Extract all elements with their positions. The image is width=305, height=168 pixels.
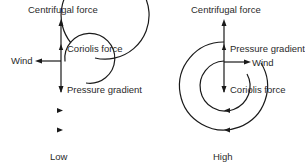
label-pressure-gradient: Pressure gradient [67, 84, 142, 95]
centrifugal-arrow-icon [222, 19, 227, 26]
wind-arrow-icon [244, 60, 251, 65]
centrifugal-arrow-icon [59, 19, 64, 26]
label-wind: Wind [11, 55, 33, 66]
wind-arrow-icon [35, 59, 42, 64]
flow-arrow-icon [224, 128, 230, 133]
label-centrifugal-force: Centrifugal force [28, 4, 98, 15]
label-pressure-gradient: Pressure gradient [230, 43, 305, 54]
label-centrifugal-force: Centrifugal force [191, 4, 261, 15]
coriolis-arrow-icon [59, 44, 63, 50]
flow-arrow-icon [57, 108, 63, 113]
pressure-gradient-arrow-icon [59, 86, 64, 93]
label-coriolis-force: Coriolis force [230, 84, 285, 95]
high-pressure-diagram: Centrifugal force Pressure gradient Wind… [179, 4, 305, 162]
force-balance-figure: Centrifugal force Coriolis force Wind Pr… [0, 0, 305, 168]
caption-high: High [213, 151, 233, 162]
label-coriolis-force: Coriolis force [67, 43, 122, 54]
label-wind: Wind [252, 57, 274, 68]
coriolis-arrow-icon [222, 86, 227, 93]
flow-arrow-icon [57, 128, 63, 133]
flow-arrow-icon [224, 108, 230, 113]
caption-low: Low [50, 151, 68, 162]
pressure-gradient-arrow-icon [222, 44, 226, 50]
low-pressure-diagram: Centrifugal force Coriolis force Wind Pr… [11, 0, 149, 162]
inner-isobar [65, 33, 115, 83]
